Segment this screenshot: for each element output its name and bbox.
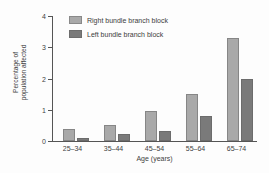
bar-left-bundle — [159, 131, 171, 141]
bar-left-bundle — [77, 138, 89, 141]
y-axis-tick-label: 0 — [42, 138, 46, 145]
y-axis-tick-label: 4 — [42, 13, 46, 20]
y-axis-title-line2: population affected — [21, 45, 29, 101]
x-axis-title: Age (years) — [52, 155, 257, 162]
x-axis-tick-label: 25–34 — [52, 145, 93, 152]
bar-left-bundle — [118, 134, 130, 141]
bar-right-bundle — [227, 38, 239, 141]
x-axis-line — [52, 141, 257, 142]
bar-right-bundle — [104, 125, 116, 141]
legend-item: Right bundle branch block — [69, 15, 168, 25]
legend-label: Right bundle branch block — [87, 17, 168, 24]
x-axis-tick-label: 65–74 — [216, 145, 257, 152]
bar-chart-figure: Percentage of population affected 01234 … — [0, 0, 269, 173]
legend-swatch-icon — [69, 30, 82, 38]
chart-legend: Right bundle branch blockLeft bundle bra… — [69, 15, 168, 43]
y-axis-title-line1: Percentage of — [13, 52, 20, 93]
y-axis-line — [52, 16, 53, 141]
legend-swatch-icon — [69, 16, 82, 24]
bar-right-bundle — [63, 129, 75, 142]
bar-right-bundle — [186, 94, 198, 141]
y-axis-tick-label: 2 — [42, 75, 46, 82]
y-axis-tick — [48, 110, 52, 111]
legend-label: Left bundle branch block — [87, 31, 163, 38]
y-axis-tick-label: 1 — [42, 106, 46, 113]
y-axis-tick — [48, 141, 52, 142]
bar-group — [186, 16, 210, 141]
y-axis-tick — [48, 79, 52, 80]
y-axis-tick-label: 3 — [42, 44, 46, 51]
y-axis-tick — [48, 16, 52, 17]
y-axis-title: Percentage of population affected — [8, 0, 34, 145]
x-axis-tick-label: 55–64 — [175, 145, 216, 152]
x-axis-tick-label: 45–54 — [134, 145, 175, 152]
bar-left-bundle — [200, 116, 212, 141]
bar-left-bundle — [241, 79, 253, 142]
bar-right-bundle — [145, 111, 157, 141]
bar-group — [227, 16, 251, 141]
x-axis-tick-label: 35–44 — [93, 145, 134, 152]
y-axis-tick — [48, 47, 52, 48]
legend-item: Left bundle branch block — [69, 29, 168, 39]
